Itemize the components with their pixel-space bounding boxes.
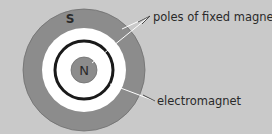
poles-annotation: poles of fixed magnet [153, 10, 272, 24]
electromagnet-annotation: electromagnet [157, 94, 242, 108]
outer-pole-label: S [66, 12, 75, 26]
diagram-canvas: S N poles of fixed magnet electromagnet [0, 0, 272, 134]
inner-pole-label: N [79, 63, 89, 78]
motor-diagram: S N poles of fixed magnet electromagnet [0, 0, 272, 134]
